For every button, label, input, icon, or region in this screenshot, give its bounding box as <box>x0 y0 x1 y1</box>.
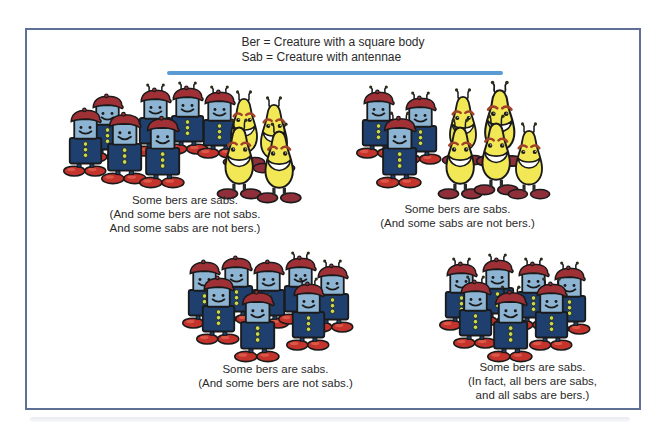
creatures-canvas <box>168 250 383 365</box>
group-caption: Some bers are sabs.(And some bers are no… <box>55 193 315 235</box>
creature-group-bottom-left: Some bers are sabs.(And some bers are no… <box>168 250 383 402</box>
divider-line <box>167 71 503 75</box>
creatures-canvas <box>350 78 565 206</box>
creatures-canvas <box>55 80 305 208</box>
caption-line: (In fact, all bers are sabs, <box>425 374 640 388</box>
group-caption: Some bers are sabs.(And some sabs are no… <box>350 202 565 230</box>
creature-group-top-left: Some bers are sabs.(And some bers are no… <box>55 80 315 248</box>
caption-line: (And some bers are not sabs. <box>55 207 315 221</box>
legend-block: Ber = Creature with a square body Sab = … <box>241 35 424 65</box>
caption-line: And some sabs are not bers.) <box>55 221 315 235</box>
caption-line: Some bers are sabs. <box>350 202 565 216</box>
legend-line-sab: Sab = Creature with antennae <box>241 50 424 65</box>
group-caption: Some bers are sabs.(In fact, all bers ar… <box>425 360 640 402</box>
caption-line: Some bers are sabs. <box>55 193 315 207</box>
legend-line-ber: Ber = Creature with a square body <box>241 35 424 50</box>
creature-group-bottom-right: Some bers are sabs.(In fact, all bers ar… <box>425 250 640 406</box>
ber-creature <box>64 108 106 176</box>
group-caption: Some bers are sabs.(And some bers are no… <box>168 362 383 390</box>
caption-line: Some bers are sabs. <box>425 360 640 374</box>
creature-group-top-right: Some bers are sabs.(And some sabs are no… <box>350 78 565 246</box>
legend: Ber = Creature with a square body Sab = … <box>25 35 641 65</box>
page-shadow <box>30 417 630 422</box>
caption-line: (And some sabs are not bers.) <box>350 216 565 230</box>
creatures-canvas <box>425 250 640 365</box>
caption-line: and all sabs are bers.) <box>425 388 640 402</box>
caption-line: (And some bers are not sabs.) <box>168 376 383 390</box>
figure: Ber = Creature with a square body Sab = … <box>0 0 655 430</box>
caption-line: Some bers are sabs. <box>168 362 383 376</box>
